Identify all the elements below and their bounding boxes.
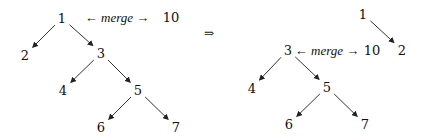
merge-diagram: 1 2 3 4 5 6 7 ← merge → 10 ⇒ 1 2 3 4 5 6… [0,0,426,140]
before-node-7: 7 [172,121,180,134]
after-node-5: 5 [323,81,331,94]
merge-word: merge [311,43,343,58]
before-node-6: 6 [97,121,105,134]
edge-before-1-3 [69,25,92,46]
merge-word: merge [101,10,133,25]
before-node-10: 10 [163,11,180,24]
after-node-7: 7 [361,118,369,131]
edge-after-1-2 [370,21,394,43]
edge-after-3-4 [260,57,282,80]
edge-before-3-5 [108,60,130,82]
left-arrow-icon: ← [295,43,308,58]
edge-after-5-7 [334,94,357,116]
after-node-4: 4 [248,82,256,95]
before-node-4: 4 [59,84,67,97]
after-node-1: 1 [359,8,367,21]
edge-before-5-6 [109,97,131,119]
right-arrow-icon: → [346,43,359,58]
left-arrow-icon: ← [85,10,98,25]
before-node-2: 2 [21,49,29,62]
edge-after-5-6 [297,94,320,116]
after-node-6: 6 [285,118,293,131]
implies-arrow-icon: ⇒ [204,27,214,39]
right-arrow-icon: → [136,10,149,25]
after-node-10: 10 [364,44,381,57]
before-merge-label: ← merge → [85,11,150,24]
before-node-3: 3 [97,47,105,60]
before-node-5: 5 [134,84,142,97]
edge-before-3-4 [71,60,94,82]
edge-after-3-5 [295,57,319,80]
after-node-3: 3 [284,44,292,57]
edge-before-5-7 [145,97,168,119]
after-node-2: 2 [398,44,406,57]
after-merge-label: ← merge → [295,44,360,57]
edge-before-1-2 [33,25,55,47]
before-node-1: 1 [58,12,66,25]
